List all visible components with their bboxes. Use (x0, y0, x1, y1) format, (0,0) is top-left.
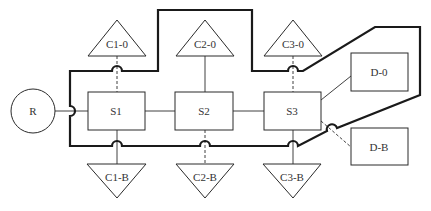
node-c3-0: C3-0 (264, 20, 322, 56)
node-s1-label: S1 (110, 105, 122, 117)
edge-s3-d-0 (321, 76, 351, 100)
node-c1-0: C1-0 (88, 20, 146, 56)
node-c3-b-label: C3-B (280, 171, 304, 183)
node-c1-b-label: C1-B (105, 171, 129, 183)
node-d-b: D-B (351, 128, 408, 165)
node-s1: S1 (88, 92, 145, 130)
node-s3: S3 (264, 92, 321, 130)
node-c2-b-label: C2-B (193, 171, 217, 183)
node-d-b-label: D-B (370, 141, 389, 153)
node-c2-b: C2-B (176, 164, 234, 198)
node-c3-0-label: C3-0 (282, 38, 305, 50)
node-s3-label: S3 (286, 105, 298, 117)
network-diagram: R S1 S2 S3 C1-0 C2-0 C3-0 C1-B C2-B C3-B (0, 0, 431, 211)
node-d-0: D-0 (351, 53, 408, 91)
node-s2: S2 (175, 92, 233, 130)
node-c1-b: C1-B (87, 164, 146, 198)
node-r: R (11, 89, 55, 133)
node-c1-0-label: C1-0 (106, 38, 129, 50)
node-c2-0: C2-0 (176, 20, 234, 56)
node-r-label: R (29, 105, 37, 117)
node-s2-label: S2 (198, 105, 210, 117)
node-d-0-label: D-0 (370, 66, 388, 78)
node-c3-b: C3-B (263, 164, 321, 198)
node-c2-0-label: C2-0 (194, 38, 217, 50)
